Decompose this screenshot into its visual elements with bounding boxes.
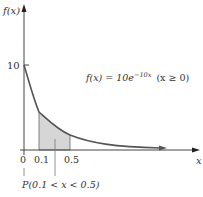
x-axis-label: x — [196, 155, 202, 166]
x-tick-label-0-1: 0.1 — [34, 154, 49, 165]
x-axis-arrow-icon — [192, 148, 200, 153]
probability-label: P(0.1 < x < 0.5) — [21, 179, 100, 190]
x-tick-label-0: 0 — [20, 154, 26, 165]
y-axis-label: f(x) — [2, 5, 20, 16]
shaded-probability-region — [39, 112, 70, 150]
x-tick-label-0-5: 0.5 — [64, 154, 79, 165]
y-axis-arrow-icon — [22, 4, 27, 12]
function-label: f(x) = 10e−10x(x ≥ 0) — [85, 71, 189, 83]
chart: f(x) 10 x 0 0.1 0.5 f(x) = 10e−10x(x ≥ 0… — [0, 0, 203, 197]
y-tick-label-10: 10 — [7, 60, 20, 71]
